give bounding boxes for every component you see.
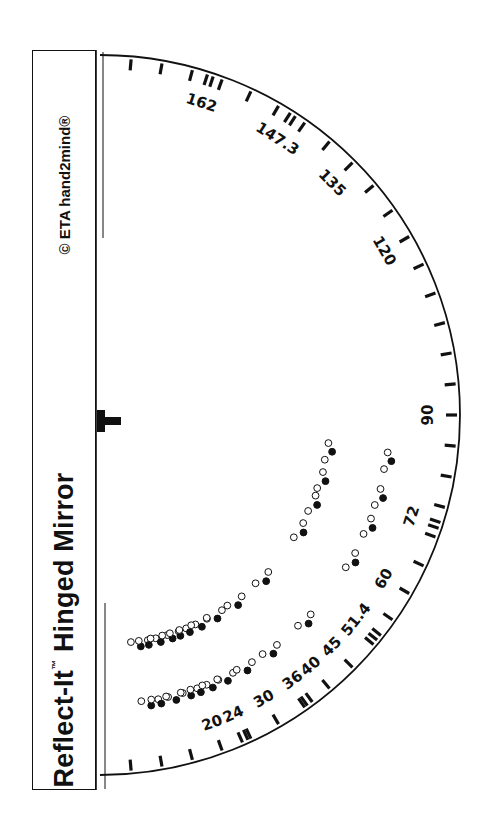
tick-mark xyxy=(414,561,424,566)
tick-mark xyxy=(445,384,456,385)
tick-mark xyxy=(204,75,207,85)
tick-mark xyxy=(425,533,435,537)
image-dot xyxy=(138,698,145,705)
tick-mark xyxy=(434,323,445,326)
object-dot xyxy=(305,620,312,627)
tick-mark xyxy=(345,163,353,171)
tick-mark xyxy=(383,210,392,216)
object-dot xyxy=(352,559,359,566)
object-dot xyxy=(244,667,251,674)
angle-label: 147.3 xyxy=(253,118,303,159)
object-dot xyxy=(235,602,242,609)
angle-label: 45 xyxy=(318,633,345,660)
tick-mark xyxy=(400,588,410,594)
object-dot xyxy=(388,458,395,465)
hinge-marker-icon xyxy=(97,410,121,432)
angle-label: 60 xyxy=(371,565,397,592)
tick-mark xyxy=(322,680,329,688)
object-dot xyxy=(263,578,270,585)
image-dot xyxy=(300,520,307,527)
angle-ticks xyxy=(130,59,457,770)
image-dot xyxy=(214,676,221,683)
image-dot xyxy=(224,602,231,609)
image-dot xyxy=(199,682,206,689)
image-dot xyxy=(377,486,384,493)
image-dot xyxy=(274,642,281,649)
image-dot xyxy=(265,569,272,576)
image-dot xyxy=(233,666,240,673)
object-dot xyxy=(197,689,204,696)
tick-mark xyxy=(414,264,424,269)
tick-mark xyxy=(430,519,440,522)
image-dot xyxy=(360,531,367,538)
tick-mark xyxy=(365,637,373,644)
tick-mark xyxy=(160,756,162,767)
image-dot xyxy=(368,515,375,522)
tick-mark xyxy=(273,715,279,725)
object-dot xyxy=(225,677,232,684)
image-dot xyxy=(159,632,166,639)
tick-mark xyxy=(306,693,312,702)
tick-mark xyxy=(365,186,373,193)
image-dot xyxy=(381,466,388,473)
tick-mark xyxy=(445,445,456,446)
image-dot xyxy=(163,693,170,700)
image-dot xyxy=(305,508,312,515)
image-dot xyxy=(177,689,184,696)
arc-line xyxy=(100,55,460,775)
image-dot xyxy=(166,630,173,637)
tick-mark xyxy=(441,475,452,477)
image-dot xyxy=(252,580,259,587)
tick-mark xyxy=(190,749,193,760)
image-dot xyxy=(238,593,245,600)
tick-mark xyxy=(238,732,242,742)
image-dot xyxy=(307,611,314,618)
tick-mark xyxy=(289,116,295,125)
angle-label: 162 xyxy=(184,89,219,116)
tick-mark xyxy=(425,293,435,297)
image-dot xyxy=(128,639,135,646)
angle-label: 72 xyxy=(400,503,424,528)
tick-mark xyxy=(210,76,213,86)
image-dot xyxy=(384,449,391,456)
tick-mark xyxy=(190,70,193,81)
image-dot xyxy=(312,492,319,499)
image-dot xyxy=(203,614,210,621)
object-dot xyxy=(314,502,321,509)
tick-mark xyxy=(434,505,445,508)
object-dot xyxy=(173,697,180,704)
object-dot xyxy=(329,448,336,455)
image-dot xyxy=(325,440,332,447)
angle-label: 120 xyxy=(369,233,400,269)
object-dot xyxy=(199,623,206,630)
angle-label: 90 xyxy=(419,405,437,426)
image-dot xyxy=(290,534,297,541)
tick-mark xyxy=(383,613,392,619)
object-dot xyxy=(322,478,329,485)
tick-mark xyxy=(284,113,290,122)
protractor-arc xyxy=(100,55,460,775)
object-dot xyxy=(187,629,194,636)
protractor-diagram: 20243036404551.4607290120135147.3162 xyxy=(0,0,485,829)
tick-mark xyxy=(218,740,222,750)
image-dot xyxy=(249,659,256,666)
object-dot xyxy=(209,684,216,691)
image-dot xyxy=(176,627,183,634)
image-dot xyxy=(259,651,266,658)
angle-label: 24 xyxy=(220,702,246,727)
image-dot xyxy=(187,686,194,693)
tick-mark xyxy=(369,633,378,640)
tick-mark xyxy=(130,59,131,70)
image-dot xyxy=(314,485,321,492)
tick-mark xyxy=(400,237,410,243)
tick-mark xyxy=(246,91,251,101)
image-dot xyxy=(188,622,195,629)
image-dot xyxy=(371,502,378,509)
image-dot xyxy=(342,564,349,571)
object-dot xyxy=(145,641,152,648)
tick-mark xyxy=(322,142,329,150)
object-dot xyxy=(214,615,221,622)
image-dot xyxy=(135,637,142,644)
object-dot xyxy=(270,650,277,657)
object-dot xyxy=(369,524,376,531)
